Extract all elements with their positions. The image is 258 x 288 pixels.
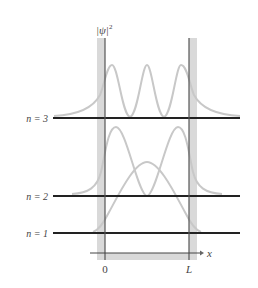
x-tick-0: 0 [102,263,108,275]
level-label-n2: n = 2 [26,191,48,202]
well-bottom-band [97,253,197,260]
finite-well-diagram: |ψ|2 x 0 L n = 3 n = 2 n = 1 [0,0,258,288]
y-axis-label: |ψ|2 [96,23,113,36]
x-axis-label: x [206,247,212,259]
x-tick-L: L [185,263,192,275]
level-label-n1: n = 1 [26,228,48,239]
level-label-n3: n = 3 [26,113,48,124]
density-curve-n3 [54,65,240,117]
x-axis-arrow-icon [200,251,204,256]
